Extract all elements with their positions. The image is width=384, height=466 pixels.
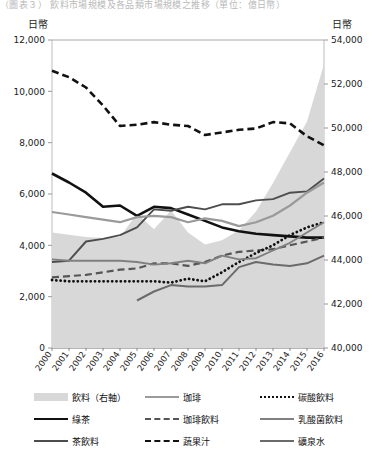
legend-swatch-icon	[34, 392, 68, 402]
left-tick-label: 4,000	[19, 241, 45, 251]
right-tick-label: 52,000	[331, 79, 363, 89]
x-tick-label: 2014	[271, 349, 292, 372]
legend-swatch-icon	[260, 436, 294, 446]
legend-swatch-icon	[260, 392, 294, 402]
x-tick-label: 2010	[203, 349, 224, 372]
right-tick-label: 44,000	[331, 255, 363, 265]
x-tick-label: 2008	[169, 349, 190, 372]
right-tick-label: 54,000	[331, 35, 363, 45]
legend-label: 珈琲飲料	[183, 413, 219, 426]
left-axis-unit: 日幣	[28, 19, 48, 30]
chart-legend: 飲料（右軸）珈琲碳酸飲料綠茶珈琲飲料乳酸菌飲料茶飲料蔬果汁礦泉水	[0, 386, 384, 466]
x-tick-label: 2012	[237, 349, 258, 372]
legend-item[interactable]: 乳酸菌飲料	[260, 413, 384, 426]
legend-item[interactable]: 飲料（右軸）	[34, 391, 145, 404]
right-tick-label: 48,000	[331, 167, 363, 177]
left-tick-label: 2,000	[19, 292, 45, 302]
x-tick-label: 2011	[220, 349, 241, 372]
legend-label: 綠茶	[72, 413, 90, 426]
legend-label: 蔬果汁	[183, 435, 210, 448]
right-tick-label: 40,000	[331, 343, 363, 353]
left-tick-label: 6,000	[19, 189, 45, 199]
right-axis-unit: 日幣	[332, 19, 352, 30]
x-tick-label: 2003	[84, 349, 105, 372]
x-tick-label: 2013	[254, 349, 275, 372]
x-tick-label: 2004	[101, 349, 122, 372]
x-tick-label: 2005	[118, 349, 139, 372]
right-tick-label: 50,000	[331, 123, 363, 133]
legend-item[interactable]: 綠茶	[34, 413, 145, 426]
beverage-market-chart: 日幣日幣12,00010,0008,0006,0004,0002,000054,…	[0, 11, 384, 381]
chart-container: 日幣日幣12,00010,0008,0006,0004,0002,000054,…	[0, 11, 384, 381]
left-tick-label: 8,000	[19, 138, 45, 148]
x-tick-label: 2007	[152, 349, 173, 372]
legend-item[interactable]: 珈琲	[145, 391, 260, 404]
legend-label: 乳酸菌飲料	[298, 413, 343, 426]
legend-row: 綠茶珈琲飲料乳酸菌飲料	[0, 408, 384, 430]
legend-label: 礦泉水	[298, 435, 325, 448]
left-tick-label: 12,000	[14, 35, 46, 45]
series-line	[52, 71, 324, 145]
legend-swatch-icon	[145, 436, 179, 446]
legend-swatch-icon	[34, 436, 68, 446]
legend-swatch-icon	[34, 414, 68, 424]
legend-swatch-icon	[260, 414, 294, 424]
legend-label: 飲料（右軸）	[72, 391, 126, 404]
x-tick-label: 2015	[288, 349, 309, 372]
legend-label: 茶飲料	[72, 435, 99, 448]
legend-item[interactable]: 珈琲飲料	[145, 413, 260, 426]
legend-label: 珈琲	[183, 391, 201, 404]
x-tick-label: 2009	[186, 349, 207, 372]
legend-item[interactable]: 礦泉水	[260, 435, 384, 448]
legend-row: 飲料（右軸）珈琲碳酸飲料	[0, 386, 384, 408]
legend-label: 碳酸飲料	[298, 391, 334, 404]
x-tick-label: 2001	[50, 349, 71, 372]
legend-item[interactable]: 碳酸飲料	[260, 391, 384, 404]
right-tick-label: 42,000	[331, 299, 363, 309]
x-tick-label: 2002	[67, 349, 88, 372]
legend-row: 茶飲料蔬果汁礦泉水	[0, 430, 384, 452]
x-tick-label: 2000	[33, 349, 54, 372]
right-tick-label: 46,000	[331, 211, 363, 221]
legend-swatch-icon	[145, 414, 179, 424]
x-tick-label: 2016	[305, 349, 326, 372]
figure-caption: （圖表３） 飲料市場規模及各品類市場規模之推移（單位：億日幣）	[0, 0, 384, 11]
legend-item[interactable]: 蔬果汁	[145, 435, 260, 448]
left-tick-label: 10,000	[14, 87, 46, 97]
x-tick-label: 2006	[135, 349, 156, 372]
legend-item[interactable]: 茶飲料	[34, 435, 145, 448]
legend-swatch-icon	[145, 392, 179, 402]
